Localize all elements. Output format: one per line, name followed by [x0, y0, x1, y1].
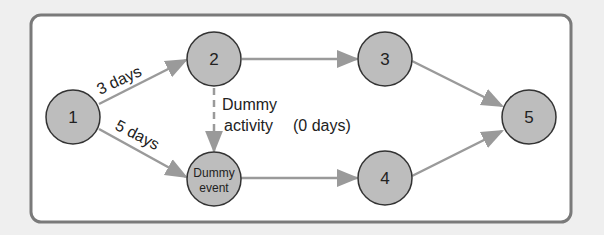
network-diagram: 3 days 5 days Dummy activity (0 days) 1 … [0, 0, 604, 235]
node-dummy-event: Dummy event [187, 152, 241, 206]
node-3: 3 [358, 32, 412, 86]
dummy-activity-label-line2: activity [224, 117, 273, 134]
node-4-label: 4 [380, 169, 389, 188]
dummy-event-label-line2: event [199, 181, 229, 195]
node-3-label: 3 [380, 50, 389, 69]
node-2: 2 [187, 32, 241, 86]
node-5: 5 [502, 90, 556, 144]
dummy-activity-duration: (0 days) [293, 117, 351, 134]
node-1-label: 1 [68, 108, 77, 127]
node-1: 1 [46, 90, 100, 144]
node-2-label: 2 [209, 50, 218, 69]
node-5-label: 5 [524, 108, 533, 127]
dummy-activity-label-line1: Dummy [222, 96, 277, 113]
dummy-event-label-line1: Dummy [193, 166, 234, 180]
node-4: 4 [358, 151, 412, 205]
